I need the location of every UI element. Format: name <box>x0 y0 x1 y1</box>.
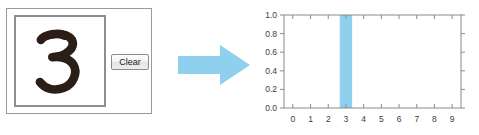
x-tick-label: 5 <box>379 114 384 124</box>
y-tick-label: 0.8 <box>265 29 277 39</box>
y-tick-label: 0.6 <box>265 47 277 57</box>
x-tick-label: 7 <box>414 114 419 124</box>
digit-input-panel: Clear <box>6 8 152 114</box>
x-tick-label: 3 <box>344 114 349 124</box>
bar-series <box>340 15 352 108</box>
y-tick-label: 1.0 <box>265 10 277 20</box>
y-tick-label: 0.2 <box>265 84 277 94</box>
clear-button[interactable]: Clear <box>111 54 149 70</box>
x-tick-label: 4 <box>361 114 366 124</box>
y-tick-label: 0.0 <box>265 103 277 113</box>
x-tick-label: 6 <box>397 114 402 124</box>
digit-drawing-canvas[interactable] <box>14 15 106 107</box>
y-tick-label: 0.4 <box>265 66 277 76</box>
x-tick-label: 1 <box>308 114 313 124</box>
x-tick-label: 8 <box>432 114 437 124</box>
x-tick-label: 2 <box>326 114 331 124</box>
bar <box>340 15 352 108</box>
x-tick-label: 0 <box>290 114 295 124</box>
plot-background <box>284 15 461 108</box>
prediction-probability-chart: 0123456789 0.00.20.40.60.81.0 <box>258 4 473 131</box>
right-arrow-icon <box>176 42 252 88</box>
drawn-digit-3-ink <box>16 17 104 105</box>
x-tick-label: 9 <box>450 114 455 124</box>
